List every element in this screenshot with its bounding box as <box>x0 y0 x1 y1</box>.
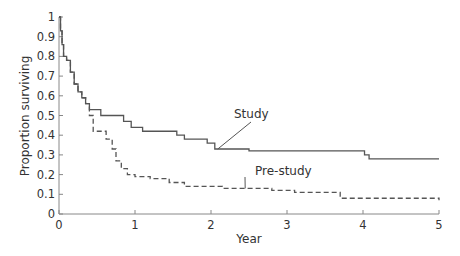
annotation-prestudy: Pre-study <box>255 164 312 178</box>
x-tick-label: 5 <box>435 218 442 232</box>
annotation-leader-study <box>218 122 251 149</box>
survival-chart: 01234500.10.20.30.40.50.60.70.80.91 Stud… <box>0 0 460 256</box>
y-tick-label: 0.8 <box>37 49 55 63</box>
y-tick-label: 0.6 <box>37 89 55 103</box>
y-tick-label: 0.3 <box>37 148 55 162</box>
x-tick-label: 0 <box>55 218 62 232</box>
x-tick-label: 3 <box>283 218 290 232</box>
y-tick-label: 0.2 <box>37 168 55 182</box>
y-tick-label: 0.7 <box>37 69 55 83</box>
y-tick-label: 0.5 <box>37 109 55 123</box>
x-tick-label: 2 <box>207 218 214 232</box>
x-tick-label: 1 <box>131 218 138 232</box>
series-study <box>59 17 439 159</box>
x-tick-label: 4 <box>359 218 366 232</box>
y-tick-label: 0.9 <box>37 30 55 44</box>
annotations: Study Pre-study <box>218 107 312 188</box>
x-axis-title: Year <box>235 232 261 246</box>
y-tick-label: 0.4 <box>37 128 55 142</box>
y-tick-label: 0.1 <box>37 187 55 201</box>
y-tick-label: 0 <box>48 207 55 221</box>
annotation-study: Study <box>234 107 269 121</box>
y-tick-label: 1 <box>48 10 55 24</box>
y-axis-title: Proportion surviving <box>18 56 32 177</box>
